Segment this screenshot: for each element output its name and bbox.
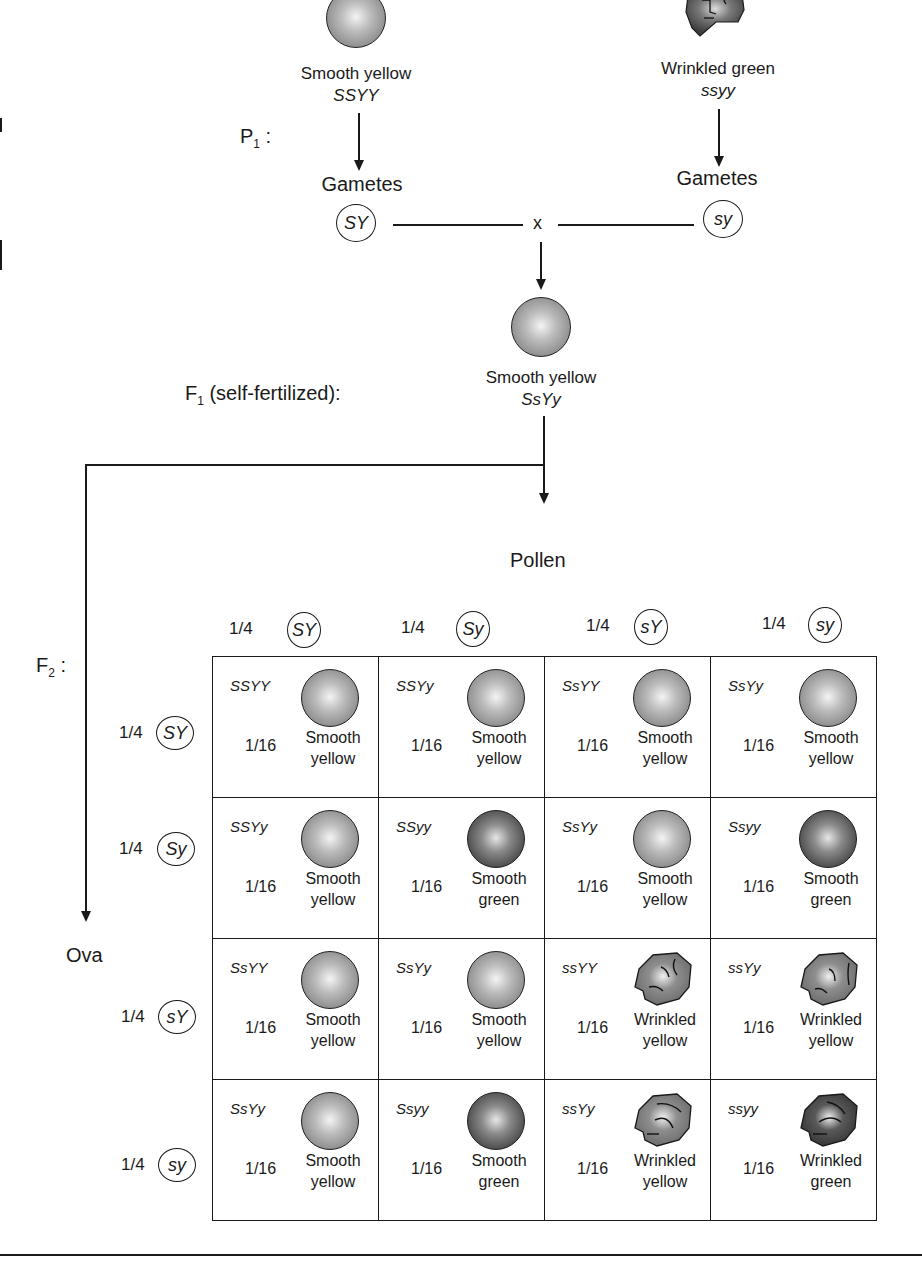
cell-phenotype: Smooth yellow <box>796 727 866 769</box>
cell-genotype: SSyy <box>396 818 431 835</box>
punnett-cell: ssYy 1/16 Wrinkled yellow <box>711 939 877 1080</box>
cell-genotype: ssYY <box>562 959 597 976</box>
punnett-row: SsYY 1/16 Smooth yellow SsYy 1/16 Smooth… <box>213 939 877 1080</box>
punnett-cell: SSyy 1/16 Smooth green <box>379 798 545 939</box>
wrinkled-green-pea-icon <box>682 0 748 38</box>
cell-phenotype: Wrinkled green <box>796 1150 866 1192</box>
cross-line-left <box>393 224 523 226</box>
cross-line-right <box>558 224 694 226</box>
punnett-square: SSYY 1/16 Smooth yellow SSYy 1/16 Smooth… <box>212 656 877 1221</box>
arrow-down-icon <box>714 156 724 167</box>
cell-phenotype: Wrinkled yellow <box>630 1009 700 1051</box>
cell-genotype: SsYy <box>728 677 763 694</box>
cell-genotype: SsYy <box>562 818 597 835</box>
arrow-line <box>358 113 360 163</box>
smooth-yellow-pea-icon <box>326 0 386 48</box>
cross-symbol: x <box>533 213 542 234</box>
cell-phenotype: Smooth yellow <box>630 868 700 910</box>
punnett-cell: SSYy 1/16 Smooth yellow <box>379 657 545 798</box>
smooth-yellow-pea-icon <box>799 669 857 727</box>
cell-phenotype: Smooth green <box>464 868 534 910</box>
cell-phenotype: Smooth yellow <box>464 1009 534 1051</box>
smooth-yellow-pea-icon <box>467 951 525 1009</box>
cell-fraction: 1/16 <box>245 1019 276 1037</box>
parent-right-phenotype: Wrinkled green <box>618 59 818 79</box>
cell-phenotype: Wrinkled yellow <box>796 1009 866 1051</box>
cell-phenotype: Wrinkled yellow <box>630 1150 700 1192</box>
cell-genotype: Ssyy <box>728 818 761 835</box>
cell-fraction: 1/16 <box>743 1019 774 1037</box>
smooth-green-pea-icon <box>799 810 857 868</box>
cell-genotype: Ssyy <box>396 1100 429 1117</box>
punnett-cell: SSYY 1/16 Smooth yellow <box>213 657 379 798</box>
cell-phenotype: Smooth yellow <box>298 727 368 769</box>
scan-artifact <box>0 118 2 132</box>
pollen-label: Pollen <box>510 549 566 572</box>
cell-fraction: 1/16 <box>577 737 608 755</box>
ova-label: Ova <box>66 944 103 967</box>
cell-phenotype: Smooth yellow <box>298 1150 368 1192</box>
cell-genotype: SsYy <box>230 1100 265 1117</box>
cell-fraction: 1/16 <box>411 1019 442 1037</box>
cell-fraction: 1/16 <box>245 737 276 755</box>
cell-genotype: SsYy <box>396 959 431 976</box>
parent-left-genotype: SSYY <box>256 86 456 106</box>
cell-fraction: 1/16 <box>245 878 276 896</box>
punnett-cell: SsYY 1/16 Smooth yellow <box>545 657 711 798</box>
f1-phenotype: Smooth yellow <box>441 368 641 388</box>
punnett-cell: SsYY 1/16 Smooth yellow <box>213 939 379 1080</box>
cell-genotype: SSYY <box>230 677 270 694</box>
branch-line-horizontal <box>85 464 544 466</box>
gametes-label-right: Gametes <box>672 167 762 190</box>
arrow-down-icon <box>354 160 364 171</box>
cell-phenotype: Smooth yellow <box>630 727 700 769</box>
punnett-row: SSYY 1/16 Smooth yellow SSYy 1/16 Smooth… <box>213 657 877 798</box>
punnett-cell: SsYy 1/16 Smooth yellow <box>545 798 711 939</box>
cell-fraction: 1/16 <box>577 1160 608 1178</box>
wrinkled-yellow-pea-icon <box>631 1088 695 1150</box>
punnett-cell: SsYy 1/16 Smooth yellow <box>379 939 545 1080</box>
cell-genotype: SsYY <box>562 677 600 694</box>
gamete-left: SY <box>336 204 376 242</box>
smooth-yellow-pea-icon <box>301 669 359 727</box>
cell-genotype: ssYy <box>562 1100 595 1117</box>
cell-fraction: 1/16 <box>577 1019 608 1037</box>
punnett-cell: SSYy 1/16 Smooth yellow <box>213 798 379 939</box>
arrow-down-icon <box>81 911 91 922</box>
smooth-yellow-pea-icon <box>633 669 691 727</box>
cell-phenotype: Smooth green <box>464 1150 534 1192</box>
cell-phenotype: Smooth yellow <box>298 1009 368 1051</box>
punnett-cell: ssYY 1/16 Wrinkled yellow <box>545 939 711 1080</box>
punnett-cell: Ssyy 1/16 Smooth green <box>379 1080 545 1221</box>
cell-fraction: 1/16 <box>743 878 774 896</box>
cell-fraction: 1/16 <box>411 878 442 896</box>
f2-generation-label: F2 : <box>36 654 66 680</box>
cell-phenotype: Smooth yellow <box>464 727 534 769</box>
cell-fraction: 1/16 <box>411 1160 442 1178</box>
ova-line <box>85 464 87 914</box>
wrinkled-yellow-pea-icon <box>797 947 861 1009</box>
arrow-line <box>540 242 542 282</box>
punnett-cell: SsYy 1/16 Smooth yellow <box>213 1080 379 1221</box>
cell-genotype: SSYy <box>230 818 268 835</box>
smooth-green-pea-icon <box>467 810 525 868</box>
f1-generation-label: F1 (self-fertilized): <box>185 382 341 408</box>
punnett-row: SsYy 1/16 Smooth yellow Ssyy 1/16 Smooth… <box>213 1080 877 1221</box>
arrow-down-icon <box>539 493 549 504</box>
punnett-cell: Ssyy 1/16 Smooth green <box>711 798 877 939</box>
bottom-divider <box>0 1254 922 1256</box>
smooth-yellow-pea-icon <box>467 669 525 727</box>
arrow-down-icon <box>536 279 546 290</box>
parent-left-phenotype: Smooth yellow <box>256 64 456 84</box>
cell-phenotype: Smooth green <box>796 868 866 910</box>
punnett-cell: ssyy 1/16 Wrinkled green <box>711 1080 877 1221</box>
cell-fraction: 1/16 <box>245 1160 276 1178</box>
gamete-right: sy <box>703 200 743 238</box>
cell-fraction: 1/16 <box>577 878 608 896</box>
smooth-yellow-pea-icon <box>301 951 359 1009</box>
parent-right-genotype: ssyy <box>618 81 818 101</box>
punnett-cell: SsYy 1/16 Smooth yellow <box>711 657 877 798</box>
cell-genotype: ssYy <box>728 959 761 976</box>
branch-line <box>543 416 545 496</box>
arrow-line <box>718 109 720 159</box>
